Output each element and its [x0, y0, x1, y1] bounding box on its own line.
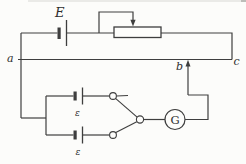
switch-contact-top-stub [117, 96, 129, 97]
circuit-figure: E a b c ε ε G [0, 0, 246, 164]
rheostat-body [114, 27, 161, 38]
label-galvanometer-G: G [171, 113, 180, 127]
switch-blade-top [116, 99, 138, 118]
switch-blade-bottom [116, 122, 138, 133]
battery-E-symbol [58, 20, 67, 46]
battery-negative-plate [58, 28, 61, 40]
switch-contact-top [110, 93, 117, 100]
label-emf-bottom: ε [76, 147, 81, 157]
cell-top-symbol [74, 88, 83, 105]
cell-bottom-negative-plate [74, 131, 77, 140]
label-point-b: b [176, 60, 183, 73]
jockey-arrow-b [186, 60, 191, 67]
label-battery-E: E [54, 5, 65, 20]
wire-galvanometer-to-jockey [185, 95, 208, 120]
label-emf-top: ε [75, 108, 80, 118]
switch-contact-bottom [110, 132, 117, 139]
two-way-switch [110, 93, 144, 139]
circuit-diagram: E a b c ε ε G [0, 0, 246, 164]
rheostat-slider-arrow [130, 20, 135, 27]
label-point-c: c [234, 55, 240, 68]
switch-common-pole [136, 116, 143, 123]
cell-bottom-symbol [74, 127, 83, 144]
wire-rheostat-to-c [161, 33, 232, 60]
cell-top-negative-plate [74, 92, 77, 101]
label-point-a: a [7, 52, 14, 65]
